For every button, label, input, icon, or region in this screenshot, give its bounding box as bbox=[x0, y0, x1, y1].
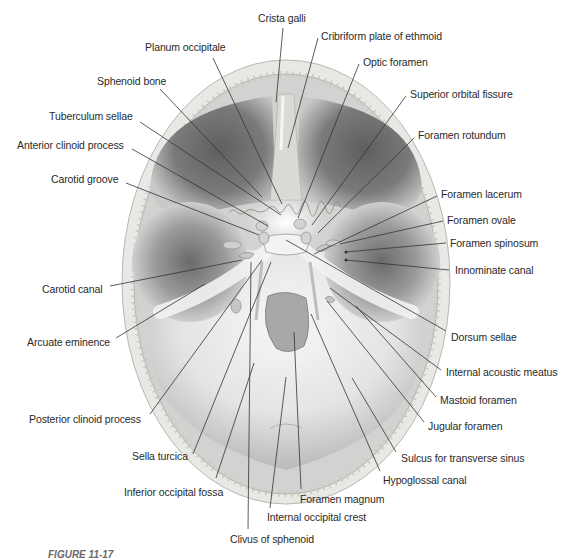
label-arcuate-eminence: Arcuate eminence bbox=[27, 336, 110, 348]
skull-base-figure: Crista galliCribriform plate of ethmoidP… bbox=[0, 0, 573, 558]
label-tuberculum-sellae: Tuberculum sellae bbox=[49, 110, 133, 122]
label-clivus-of-sphenoid: Clivus of sphenoid bbox=[230, 533, 314, 545]
label-carotid-groove: Carotid groove bbox=[51, 173, 118, 185]
label-dorsum-sellae: Dorsum sellae bbox=[451, 331, 517, 343]
label-sella-turcica: Sella turcica bbox=[132, 450, 188, 462]
anterior-fossa-left bbox=[150, 96, 276, 216]
label-mastoid-foramen: Mastoid foramen bbox=[440, 394, 517, 406]
label-internal-acoustic-meatus: Internal acoustic meatus bbox=[446, 366, 557, 378]
skull-base-illustration bbox=[0, 0, 573, 558]
label-foramen-ovale: Foramen ovale bbox=[447, 214, 516, 226]
figure-caption: FIGURE 11-17 bbox=[48, 550, 113, 558]
label-sulcus-transverse-sinus: Sulcus for transverse sinus bbox=[401, 452, 524, 464]
label-foramen-spinosum: Foramen spinosum bbox=[450, 237, 538, 249]
label-internal-occipital-crest: Internal occipital crest bbox=[267, 511, 366, 523]
label-foramen-rotundum: Foramen rotundum bbox=[418, 129, 506, 141]
label-posterior-clinoid-process: Posterior clinoid process bbox=[29, 413, 141, 425]
label-foramen-magnum: Foramen magnum bbox=[300, 493, 384, 505]
label-cribriform-plate: Cribriform plate of ethmoid bbox=[321, 30, 442, 42]
label-foramen-lacerum: Foramen lacerum bbox=[441, 188, 522, 200]
label-carotid-canal: Carotid canal bbox=[42, 283, 103, 295]
label-jugular-foramen: Jugular foramen bbox=[428, 420, 502, 432]
label-planum-occipitale: Planum occipitale bbox=[145, 41, 226, 53]
label-superior-orbital-fissure: Superior orbital fissure bbox=[410, 88, 513, 100]
label-inferior-occipital-fossa: Inferior occipital fossa bbox=[124, 486, 223, 498]
label-optic-foramen: Optic foramen bbox=[363, 56, 428, 68]
label-crista-galli: Crista galli bbox=[258, 12, 306, 24]
anterior-fossa-right bbox=[296, 96, 422, 216]
label-anterior-clinoid-process: Anterior clinoid process bbox=[17, 139, 124, 151]
label-hypoglossal-canal: Hypoglossal canal bbox=[383, 474, 467, 486]
label-innominate-canal: Innominate canal bbox=[455, 264, 533, 276]
label-sphenoid-bone: Sphenoid bone bbox=[97, 75, 166, 87]
